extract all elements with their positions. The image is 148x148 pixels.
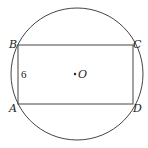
label-c: C (133, 38, 142, 51)
side-length-ab: 6 (21, 68, 27, 80)
center-point-o (74, 73, 76, 75)
label-a: A (8, 102, 17, 115)
label-o: O (78, 68, 87, 81)
circumscribed-circle (11, 8, 143, 140)
diagram-svg: B C A D O 6 (0, 0, 148, 148)
label-d: D (132, 102, 142, 115)
label-b: B (8, 38, 17, 51)
geometry-diagram: B C A D O 6 (0, 0, 148, 148)
